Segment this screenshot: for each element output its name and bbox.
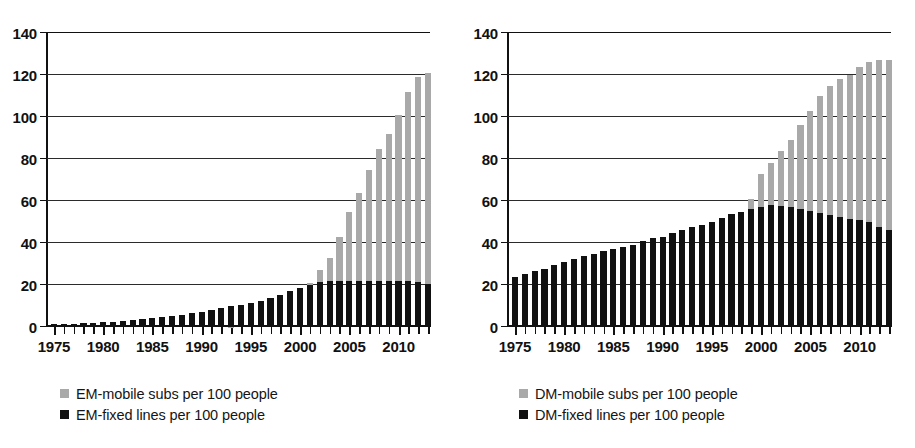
bar-slot <box>669 33 675 327</box>
bar-fixed <box>817 213 823 327</box>
chart-panel-em: 020406080100120140 197519801985199019952… <box>0 0 457 448</box>
legend-label-dm-mobile: DM-mobile subs per 100 people <box>535 386 738 402</box>
bar-slot <box>405 33 411 327</box>
figure-container: 020406080100120140 197519801985199019952… <box>0 0 915 448</box>
bar-slot <box>395 33 401 327</box>
bar-fixed <box>689 227 695 327</box>
bar-fixed <box>768 205 774 327</box>
x-tick-mark <box>143 327 145 334</box>
x-tick-label: 1975 <box>499 338 532 355</box>
bar-fixed <box>630 245 636 327</box>
x-tick-mark <box>290 327 292 334</box>
x-tick-label: 2010 <box>382 338 415 355</box>
x-tick-mark <box>271 327 273 334</box>
bar-fixed <box>581 256 587 327</box>
bar-fixed <box>748 209 754 327</box>
bar-slot <box>876 33 882 327</box>
x-tick-mark <box>525 327 527 334</box>
bar-slot <box>561 33 567 327</box>
x-tick-mark <box>604 327 606 334</box>
bar-slot <box>827 33 833 327</box>
bar-slot <box>600 33 606 327</box>
legend-swatch-fixed-icon <box>60 410 69 419</box>
bar-slot <box>179 33 185 327</box>
x-tick-mark <box>869 327 871 334</box>
bar-slot <box>149 33 155 327</box>
x-tick-mark <box>663 327 665 335</box>
x-tick-mark <box>399 327 401 335</box>
x-tick-mark <box>310 327 312 334</box>
x-tick-marks-dm <box>507 327 891 335</box>
x-tick-mark <box>751 327 753 334</box>
x-tick-mark <box>379 327 381 334</box>
bar-slot <box>218 33 224 327</box>
y-tick-label: 140 <box>474 25 498 42</box>
x-tick-label: 1985 <box>136 338 169 355</box>
bar-fixed <box>610 249 616 327</box>
bar-slot <box>709 33 715 327</box>
bar-slot <box>120 33 126 327</box>
bar-slot <box>512 33 518 327</box>
x-tick-mark <box>211 327 213 334</box>
bar-fixed <box>159 317 165 327</box>
x-tick-label: 2000 <box>745 338 778 355</box>
bar-fixed <box>169 316 175 327</box>
x-tick-mark <box>74 327 76 334</box>
bar-slot <box>71 33 77 327</box>
x-tick-mark <box>349 327 351 335</box>
x-tick-mark <box>800 327 802 334</box>
legend-item-em-mobile: EM-mobile subs per 100 people <box>60 383 278 404</box>
bar-slot <box>277 33 283 327</box>
bar-slot <box>307 33 313 327</box>
x-tick-mark <box>172 327 174 334</box>
bar-fixed <box>778 206 784 327</box>
bar-slot <box>768 33 774 327</box>
x-tick-label: 1990 <box>185 338 218 355</box>
x-tick-mark <box>554 327 556 334</box>
bar-fixed <box>640 241 646 327</box>
bar-slot <box>228 33 234 327</box>
legend-item-dm-fixed: DM-fixed lines per 100 people <box>519 404 738 425</box>
x-tick-mark <box>761 327 763 335</box>
x-tick-label: 2010 <box>843 338 876 355</box>
bar-slot <box>110 33 116 327</box>
x-tick-mark <box>781 327 783 334</box>
bar-slot <box>630 33 636 327</box>
y-tick-label: 60 <box>482 193 498 210</box>
plot-area-dm: 020406080100120140 197519801985199019952… <box>507 33 891 327</box>
bar-fixed <box>307 285 313 327</box>
x-tick-mark <box>682 327 684 334</box>
bar-slot <box>376 33 382 327</box>
bar-fixed <box>149 318 155 327</box>
bar-fixed <box>571 259 577 327</box>
bar-slot <box>719 33 725 327</box>
bar-slot <box>581 33 587 327</box>
x-tick-mark <box>320 327 322 334</box>
bar-fixed <box>788 207 794 327</box>
x-tick-mark <box>64 327 66 334</box>
bar-fixed <box>110 322 116 327</box>
bar-slot <box>807 33 813 327</box>
bar-slot <box>248 33 254 327</box>
bar-fixed <box>847 219 853 327</box>
bar-fixed <box>80 323 86 327</box>
bar-fixed <box>415 282 421 327</box>
bar-slot <box>856 33 862 327</box>
y-tick-label: 120 <box>474 67 498 84</box>
x-tick-mark <box>369 327 371 334</box>
bar-fixed <box>61 324 67 327</box>
bar-slot <box>258 33 264 327</box>
bar-fixed <box>208 310 214 327</box>
bar-fixed <box>238 305 244 327</box>
x-tick-mark <box>741 327 743 334</box>
x-tick-mark <box>574 327 576 334</box>
bar-slot <box>356 33 362 327</box>
chart-panel-dm: 020406080100120140 197519801985199019952… <box>457 0 914 448</box>
bar-fixed <box>346 281 352 327</box>
bar-fixed <box>650 238 656 327</box>
x-tick-mark <box>83 327 85 334</box>
bar-slot <box>847 33 853 327</box>
y-tick-label: 20 <box>482 277 498 294</box>
bar-slot <box>169 33 175 327</box>
bar-slot <box>522 33 528 327</box>
